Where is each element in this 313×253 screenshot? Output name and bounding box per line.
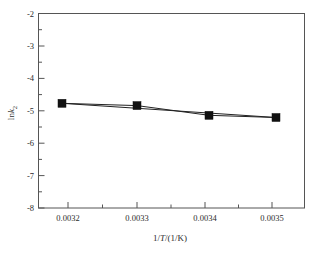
y-tick-label: -4 [27, 73, 35, 83]
x-tick-label: 0.0035 [260, 213, 283, 223]
x-axis-title: 1/T/(1/K) [153, 233, 187, 243]
data-point-marker[interactable] [272, 114, 280, 122]
y-tick-label: -8 [27, 203, 34, 213]
x-tick-label: 0.0032 [56, 213, 79, 223]
x-tick-label: 0.0034 [193, 213, 217, 223]
x-tick-label: 0.0033 [125, 213, 148, 223]
data-point-marker[interactable] [58, 99, 66, 107]
y-tick-label: -7 [27, 171, 34, 181]
arrhenius-plot-figure: -2 -3 -4 -5 -6 -7 -8 0.0032 0.0033 0.003… [0, 0, 313, 253]
y-tick-label: -2 [27, 9, 34, 19]
data-point-marker[interactable] [205, 111, 213, 119]
chart-canvas: -2 -3 -4 -5 -6 -7 -8 0.0032 0.0033 0.003… [0, 0, 313, 253]
svg-text:1/T/(1/K): 1/T/(1/K) [153, 233, 187, 243]
y-tick-label: -3 [27, 41, 34, 51]
y-tick-label: -6 [27, 138, 34, 148]
data-point-marker[interactable] [133, 102, 141, 110]
y-axis-title-subscript: 2 [11, 106, 18, 109]
y-tick-label: -5 [27, 106, 34, 116]
x-axis-title-suffix: /(1/K) [165, 233, 187, 243]
